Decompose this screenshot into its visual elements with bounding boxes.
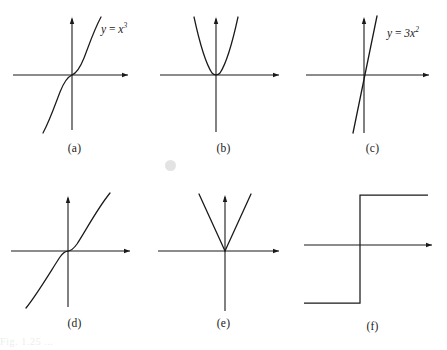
plot-c (298, 2, 447, 147)
caption-b: (b) (149, 142, 298, 154)
panel-d: y = x|x| (d) (0, 177, 149, 347)
scan-smudge (165, 160, 176, 171)
plot-f (298, 177, 447, 322)
plot-d (0, 177, 149, 322)
y-axis-e (223, 195, 227, 311)
bleed-through-text: Fig. 1.25 ... (0, 336, 447, 350)
x-axis-e (158, 249, 279, 253)
caption-e: (e) (149, 317, 298, 329)
panel-c: y = 6x (c) (298, 2, 447, 172)
caption-c: (c) (298, 142, 447, 154)
curve-f (304, 195, 428, 303)
plot-b (149, 2, 298, 147)
panel-f: y = 2+4θ(x) (f) (298, 177, 447, 347)
x-axis-f (304, 243, 432, 247)
equation-lhs-a: y (101, 23, 106, 35)
plot-e (149, 177, 298, 322)
panel-a: y = x3 (a) (0, 2, 149, 172)
caption-d: (d) (0, 317, 149, 329)
equation-eq-a: = (109, 23, 116, 35)
figure-panel-grid: y = x3 (a) y = 3x2 (b) (0, 0, 447, 350)
x-axis-a (13, 73, 128, 77)
x-axis-c (306, 73, 429, 77)
equation-sup-a: 3 (123, 21, 127, 30)
panel-b: y = 3x2 (b) (149, 2, 298, 172)
equation-label-a: y = x3 (101, 24, 127, 36)
caption-f: (f) (298, 320, 447, 332)
panel-e: y = 2|x| (e) (149, 177, 298, 347)
caption-a: (a) (0, 142, 149, 154)
